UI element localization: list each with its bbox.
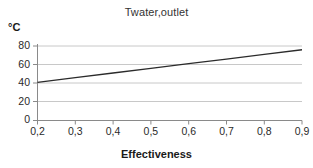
x-tick-label-6: 0,8 — [247, 126, 281, 137]
y-tick-label-20: 20 — [4, 96, 30, 107]
x-axis-ticks — [38, 121, 303, 125]
data-series-line — [38, 50, 303, 83]
x-tick-label-4: 0,6 — [172, 126, 206, 137]
y-tick-label-60: 60 — [4, 59, 30, 70]
axes — [37, 44, 302, 121]
x-tick-label-1: 0,3 — [58, 126, 92, 137]
x-tick-label-5: 0,7 — [210, 126, 244, 137]
y-tick-label-80: 80 — [4, 40, 30, 51]
y-axis-ticks — [33, 46, 38, 121]
chart-container: Twater,outlet °C — [0, 0, 313, 168]
x-tick-label-7: 0,9 — [285, 126, 313, 137]
y-tick-label-40: 40 — [4, 77, 30, 88]
x-tick-label-3: 0,5 — [134, 126, 168, 137]
x-axis-title: Effectiveness — [0, 148, 313, 160]
y-tick-label-0: 0 — [4, 114, 30, 125]
x-tick-label-2: 0,4 — [96, 126, 130, 137]
x-tick-label-0: 0,2 — [21, 126, 55, 137]
plot-area — [0, 0, 313, 168]
